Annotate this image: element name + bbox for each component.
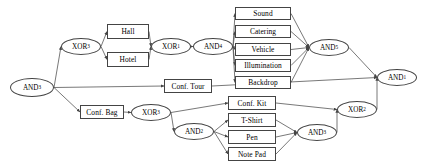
node-label: AND (23, 84, 39, 92)
node-label: Backdrop (248, 78, 278, 87)
edge-and3-to-ctour (54, 86, 164, 88)
node-label: Conf. Bag (86, 108, 117, 117)
activity-node-vehic[interactable]: Vehicle (235, 43, 291, 56)
connector-node-and4[interactable]: AND4 (193, 38, 233, 55)
edge-and5-to-and1 (349, 48, 377, 78)
connector-node-and3[interactable]: AND3 (10, 78, 54, 97)
edge-xor3b-to-ckit (171, 103, 228, 113)
connector-node-and3b[interactable]: AND3 (297, 124, 337, 141)
node-label: Conf. Tour (171, 82, 204, 91)
activity-node-backd[interactable]: Backdrop (235, 76, 291, 89)
edge-cater-to-and5 (291, 32, 309, 48)
activity-node-sound[interactable]: Sound (235, 7, 291, 20)
node-label: AND (388, 74, 404, 82)
edge-and2-to-notep (214, 132, 228, 155)
activity-node-hotel[interactable]: Hotel (107, 52, 149, 67)
node-label-subscript: 4 (219, 44, 222, 49)
edge-and3-to-cbag (54, 88, 80, 113)
node-label: Catering (250, 27, 276, 36)
node-label-subscript: 3 (38, 85, 41, 90)
process-model-diagram: AND3XOR3HallHotelXOR1AND4SoundCateringVe… (0, 0, 422, 164)
activity-node-notep[interactable]: Note Pad (228, 147, 276, 161)
node-label: Sound (253, 9, 272, 18)
node-label-subscript: 3 (157, 110, 160, 115)
node-label: Pen (246, 133, 257, 142)
node-label: Conf. Kit (238, 99, 267, 108)
node-label: XOR (162, 43, 177, 51)
node-label: Note Pad (238, 150, 266, 159)
activity-node-cbag[interactable]: Conf. Bag (80, 105, 124, 119)
edge-illum-to-and5 (291, 48, 309, 66)
connector-node-xor3b[interactable]: XOR3 (131, 104, 171, 121)
activity-node-hall[interactable]: Hall (107, 24, 149, 39)
connector-node-and5[interactable]: AND5 (309, 39, 349, 56)
edge-tshirt-to-and3b (276, 120, 297, 133)
activity-node-ctour[interactable]: Conf. Tour (164, 79, 212, 93)
edge-pen-to-and3b (276, 133, 297, 138)
node-label-subscript: 2 (200, 129, 203, 134)
node-label: T-Shirt (241, 116, 262, 125)
node-label-subscript: 1 (403, 75, 406, 80)
activity-node-tshirt[interactable]: T-Shirt (228, 113, 276, 127)
node-label: Illumination (244, 61, 282, 70)
edge-cbag-to-xor3b (124, 112, 131, 113)
node-label: AND (320, 44, 336, 52)
node-label: XOR (142, 109, 157, 117)
connector-node-xor2[interactable]: XOR2 (337, 101, 377, 118)
activity-node-cater[interactable]: Catering (235, 25, 291, 38)
node-label: XOR (348, 106, 363, 114)
activity-node-ckit[interactable]: Conf. Kit (228, 96, 276, 110)
node-label: Vehicle (252, 45, 275, 54)
connector-node-xor3a[interactable]: XOR3 (61, 38, 101, 55)
edge-vehic-to-and5 (291, 48, 309, 50)
connector-node-and1[interactable]: AND1 (377, 69, 417, 86)
edge-notep-to-and3b (276, 133, 297, 155)
node-label-subscript: 5 (335, 45, 338, 50)
node-label: Hall (121, 27, 134, 36)
node-label-subscript: 2 (363, 107, 366, 112)
activity-node-illum[interactable]: Illumination (235, 59, 291, 72)
node-label-subscript: 1 (177, 44, 180, 49)
connector-node-and2[interactable]: AND2 (174, 123, 214, 140)
node-label-subscript: 3 (323, 130, 326, 135)
node-label: Hotel (120, 55, 137, 64)
edge-and3-to-xor3a (54, 47, 61, 88)
edge-ckit-to-xor2 (276, 103, 337, 110)
edge-and2-to-tshirt (214, 120, 228, 132)
node-label: AND (308, 129, 324, 137)
node-label: AND (185, 128, 201, 136)
activity-node-pen[interactable]: Pen (228, 130, 276, 144)
edge-backd-to-and5 (291, 48, 309, 83)
node-label: XOR (72, 43, 87, 51)
node-label: AND (204, 43, 220, 51)
node-label-subscript: 3 (87, 44, 90, 49)
connector-node-xor1[interactable]: XOR1 (151, 38, 191, 55)
edge-sound-to-and5 (291, 14, 309, 48)
